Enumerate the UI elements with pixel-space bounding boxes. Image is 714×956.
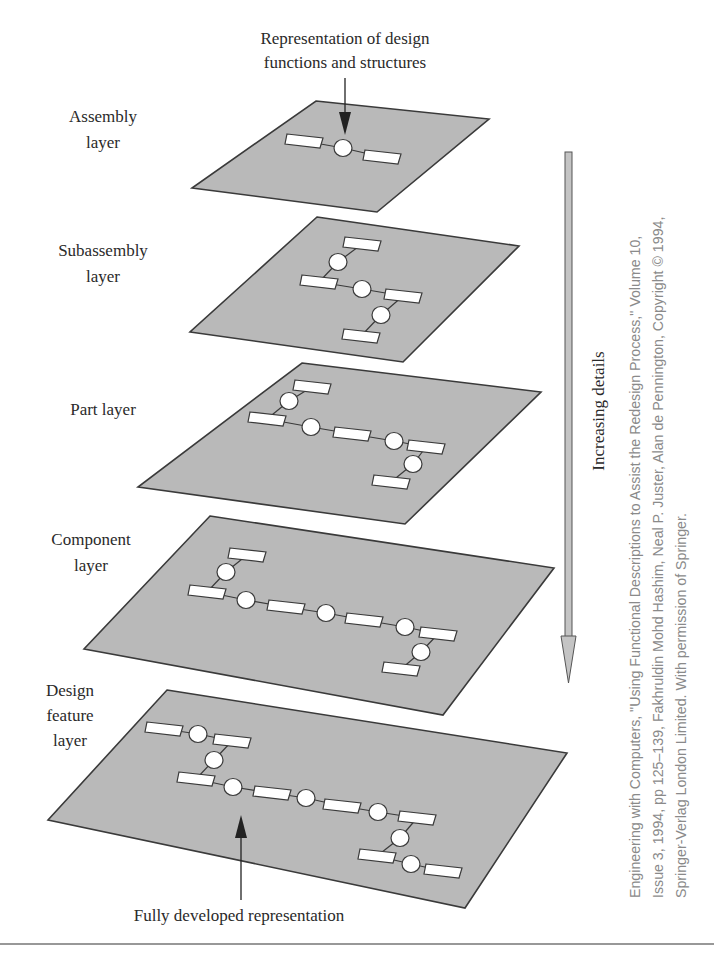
bottom-label: Fully developed representation — [134, 906, 345, 925]
layer-subassembly: Subassemblylayer — [58, 217, 519, 362]
layer-label-part: Part layer — [70, 400, 136, 419]
layer-label-design-feature: feature — [46, 706, 93, 725]
function-node — [280, 393, 298, 410]
function-node — [224, 779, 242, 796]
function-node — [369, 804, 387, 821]
credit-line3: Springer-Verlag London Limited. With per… — [673, 513, 689, 898]
top-label-line2: functions and structures — [264, 53, 426, 72]
function-node — [217, 564, 235, 581]
layered-representation-diagram: AssemblylayerSubassemblylayerPart layerC… — [0, 0, 714, 956]
layer-label-assembly: layer — [86, 133, 120, 152]
function-node — [396, 619, 414, 636]
function-node — [334, 140, 352, 157]
function-node — [302, 419, 320, 436]
credit-line2: Issue 3, 1994, pp 125–139, Fakhruldin Mo… — [650, 217, 666, 898]
layer-label-component: Component — [51, 530, 131, 549]
layer-label-design-feature: layer — [53, 731, 87, 750]
function-node — [237, 592, 255, 609]
function-node — [189, 726, 207, 743]
layer-label-subassembly: layer — [86, 267, 120, 286]
layer-part: Part layer — [70, 363, 541, 524]
top-label-line1: Representation of design — [260, 29, 430, 48]
layer-label-component: layer — [74, 556, 108, 575]
function-node — [404, 456, 422, 473]
function-node — [391, 830, 409, 847]
layer-design-feature: Designfeaturelayer — [46, 681, 567, 908]
layer-label-design-feature: Design — [46, 681, 95, 700]
layer-assembly: Assemblylayer — [69, 101, 489, 212]
increasing-details-label: Increasing details — [589, 351, 608, 470]
increasing-details-arrow-icon — [561, 152, 576, 683]
function-node — [353, 281, 371, 298]
function-node — [412, 644, 430, 661]
layer-plane-part — [138, 363, 541, 524]
layer-component: Componentlayer — [51, 516, 554, 715]
layers-group: AssemblylayerSubassemblylayerPart layerC… — [46, 101, 567, 908]
function-node — [297, 790, 315, 807]
function-node — [385, 433, 403, 450]
credit-block: Engineering with Computers, "Using Funct… — [627, 217, 689, 898]
function-node — [205, 752, 223, 769]
function-node — [329, 254, 347, 271]
layer-label-subassembly: Subassembly — [58, 241, 148, 260]
function-node — [402, 856, 420, 873]
function-node — [317, 605, 335, 622]
credit-line1: Engineering with Computers, "Using Funct… — [627, 236, 643, 898]
layer-label-assembly: Assembly — [69, 107, 138, 126]
function-node — [372, 307, 390, 324]
